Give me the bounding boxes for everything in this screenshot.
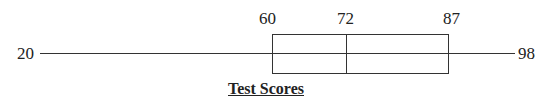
median-line	[346, 34, 347, 74]
min-label: 20	[17, 45, 34, 62]
median-label: 72	[337, 10, 354, 27]
iqr-box	[272, 34, 449, 74]
max-label: 98	[518, 45, 535, 62]
chart-title: Test Scores	[228, 81, 304, 97]
q1-label: 60	[259, 10, 276, 27]
q3-label: 87	[443, 10, 460, 27]
